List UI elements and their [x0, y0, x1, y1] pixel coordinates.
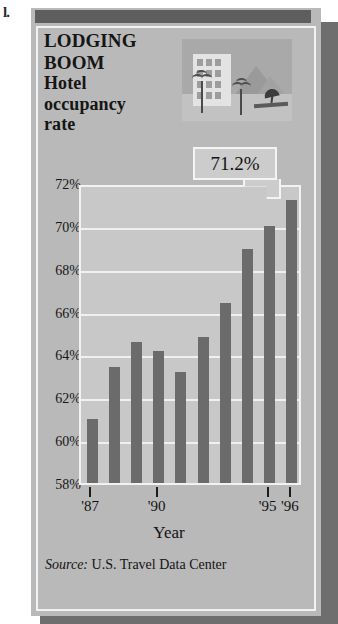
y-axis-tick-label: 70% [55, 220, 81, 236]
source-label: Source: [45, 557, 88, 572]
chart-card: LODGING BOOM Hotel occupancy rate [31, 8, 321, 616]
bar [87, 419, 98, 483]
x-axis-labels: '87'90'95'96 [79, 498, 301, 520]
callout-value: 71.2% [210, 153, 259, 175]
page-text-artifact: l. [3, 4, 9, 21]
bar [242, 249, 253, 483]
bar [286, 200, 297, 483]
y-axis-tick-label: 60% [55, 434, 81, 450]
bar [220, 303, 231, 483]
bar [264, 226, 275, 483]
x-axis-tick [89, 487, 91, 497]
x-axis-title: Year [31, 523, 307, 543]
y-axis-tick-label: 68% [55, 263, 81, 279]
x-axis-tick [267, 487, 269, 497]
x-axis-tick-label: '90 [148, 498, 166, 515]
source-text: U.S. Travel Data Center [92, 557, 227, 572]
bar [153, 351, 164, 483]
bar [175, 372, 186, 483]
bar-series [81, 187, 299, 483]
x-axis-tick-label: '95 [259, 498, 277, 515]
source-note: Source: U.S. Travel Data Center [45, 556, 275, 574]
y-axis-tick-label: 66% [55, 306, 81, 322]
y-axis-tick-label: 64% [55, 348, 81, 364]
y-axis-tick-label: 58% [55, 477, 81, 493]
y-axis-tick-label: 62% [55, 391, 81, 407]
x-axis-tick [156, 487, 158, 497]
x-axis-tick-label: '96 [281, 498, 299, 515]
bar [198, 337, 209, 483]
bar [109, 367, 120, 483]
value-callout: 71.2% [193, 147, 277, 180]
x-axis-tick-label: '87 [81, 498, 99, 515]
bar-chart: 58%60%62%64%66%68%70%72% '87'90'95'96 Ye… [31, 8, 321, 616]
y-axis-tick-label: 72% [55, 177, 81, 193]
x-axis-tick [289, 487, 291, 497]
plot-area [79, 185, 301, 485]
bar [131, 342, 142, 483]
